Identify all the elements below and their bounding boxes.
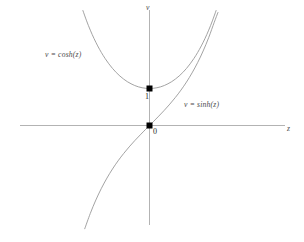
cosh-curve-label: v = cosh(z): [45, 51, 81, 59]
plot-canvas: [0, 0, 304, 242]
cosh-minimum-marker: [147, 86, 153, 92]
origin-marker: [147, 123, 153, 129]
point-label-one: 1: [145, 93, 149, 101]
sinh-curve-label: v = sinh(z): [184, 101, 219, 109]
point-label-zero: 0: [153, 128, 157, 136]
y-axis-label: v: [146, 4, 149, 12]
hyperbolic-functions-figure: v = cosh(z) v = sinh(z) v z 1 0: [0, 0, 304, 242]
x-axis-label: z: [287, 125, 290, 133]
sinh-curve: [85, 13, 218, 229]
